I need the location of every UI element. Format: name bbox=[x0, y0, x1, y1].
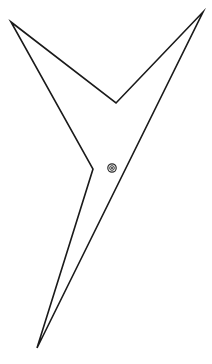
figure-canvas bbox=[0, 0, 212, 364]
figure-background bbox=[0, 0, 212, 364]
bullseye-icon-core bbox=[111, 167, 113, 169]
